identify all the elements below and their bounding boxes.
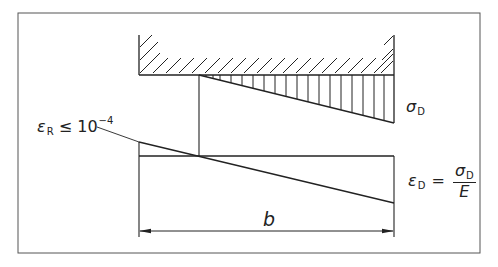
frac-sigma-sub: D (466, 170, 474, 181)
eps-r-base: 10 (77, 117, 97, 136)
support-hatching (139, 35, 394, 75)
sigma-d-label: σD (406, 99, 425, 117)
leq-sign: ≤ (59, 117, 72, 136)
fraction-numerator: σD (453, 163, 476, 183)
eps-r-subscript: R (47, 126, 54, 137)
equals-sign: = (431, 171, 444, 190)
fraction-denominator: E (453, 183, 476, 200)
eps-d-subscript: D (418, 180, 426, 191)
sigma-symbol: σ (406, 97, 416, 116)
sigma-subscript: D (417, 106, 425, 117)
stress-over-modulus-fraction: σD E (453, 163, 476, 200)
eps-r-exponent: −4 (99, 115, 114, 126)
eps-r-label: εR ≤ 10−4 (37, 116, 113, 137)
frac-sigma: σ (455, 161, 465, 180)
eps-d-equation: εD = σD E (408, 163, 476, 200)
eps-d-symbol: ε (408, 171, 417, 190)
stress-distribution (199, 75, 394, 123)
width-label: b (263, 210, 275, 229)
eps-r-symbol: ε (37, 117, 46, 136)
